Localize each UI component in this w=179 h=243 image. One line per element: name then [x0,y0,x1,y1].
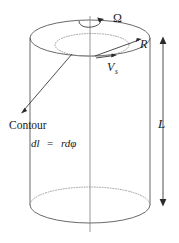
contour-leader-line [24,54,72,110]
length-label: L [157,116,165,131]
velocity-label-group: V s [107,60,118,76]
velocity-subscript-label: s [115,67,118,76]
contour-label: Contour [9,119,47,131]
length-arrowhead-bottom [160,199,167,207]
formula-equals-label: = [47,137,53,149]
length-arrowhead-top [160,37,167,45]
formula-dl-label: dl [31,137,40,149]
contour-leader-arrow [21,54,72,114]
formula-rdphi-label: rdφ [61,137,76,149]
contour-ellipse [55,34,129,57]
rotating-cylinder-diagram: Ω R V s L Contour dl = rdφ [0,0,179,243]
omega-label: Ω [113,11,122,25]
contour-leader-arrowhead [21,108,27,114]
contour-circle [55,34,129,57]
line-element-formula: dl = rdφ [31,137,76,149]
figure-container: Ω R V s L Contour dl = rdφ [0,0,179,243]
omega-rotation-arrow [79,18,104,28]
radius-label: R [139,37,148,51]
